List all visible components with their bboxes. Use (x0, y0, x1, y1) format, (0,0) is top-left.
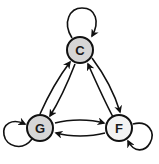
node-C-label: C (75, 43, 85, 58)
edge-C-C-self-loop (67, 8, 96, 38)
node-F-label: F (115, 121, 123, 136)
graph-svg: C G F (0, 0, 159, 164)
node-G-label: G (35, 121, 45, 136)
edge-G-to-F (55, 120, 104, 123)
node-G: G (27, 115, 53, 141)
node-F: F (106, 115, 132, 141)
node-C: C (67, 37, 93, 63)
graph-canvas: C G F (0, 0, 159, 164)
edge-F-to-G (56, 133, 105, 136)
edge-F-to-C (88, 64, 113, 117)
